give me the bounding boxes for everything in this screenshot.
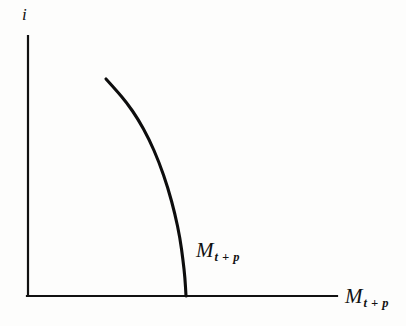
x-axis-label-base: M: [345, 284, 363, 308]
figure-canvas: i Mt + p Mt + p: [0, 0, 406, 326]
curve-label-subscript: t + p: [215, 250, 241, 264]
x-axis-label-subscript: t + p: [364, 296, 390, 310]
curve-label: Mt + p: [196, 240, 240, 264]
plot-area: [0, 0, 406, 326]
y-axis-label: i: [22, 6, 27, 23]
y-axis-label-base: i: [22, 5, 27, 24]
money-demand-curve: [106, 79, 186, 296]
curve-label-base: M: [196, 238, 214, 262]
x-axis-label: Mt + p: [345, 286, 389, 310]
